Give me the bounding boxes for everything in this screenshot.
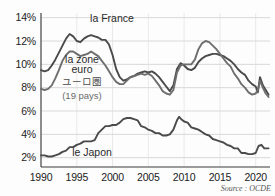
series-label-france: la France <box>90 12 134 24</box>
chart-container: 2%4%6%8%10%12%14% 1990199520002005201020… <box>0 0 275 196</box>
source-attribution: Source : OCDE <box>221 184 271 193</box>
x-tick-label: 2005 <box>137 171 160 183</box>
y-tick-label: 8% <box>21 81 36 93</box>
x-tick-label: 2015 <box>209 171 232 183</box>
y-tick-label: 14% <box>16 11 36 23</box>
x-axis-tick-labels: 1990199520002005201020152020 <box>30 171 268 183</box>
series-label-eurozone-line2: euro <box>71 63 92 75</box>
x-tick-label: 2000 <box>101 171 124 183</box>
series-label-japan: le Japon <box>72 146 112 158</box>
series-label-eurozone-countries: (19 pays) <box>62 90 102 101</box>
x-tick-label: 2010 <box>173 171 196 183</box>
y-tick-label: 10% <box>16 58 36 70</box>
y-axis-tick-labels: 2%4%6%8%10%12%14% <box>16 11 36 163</box>
x-tick-label: 1990 <box>30 171 53 183</box>
y-tick-label: 2% <box>21 151 36 163</box>
y-tick-label: 4% <box>21 128 36 140</box>
x-tick-label: 1995 <box>66 171 89 183</box>
y-tick-label: 12% <box>16 35 36 47</box>
y-tick-label: 6% <box>21 105 36 117</box>
series-label-eurozone-japanese: ユーロ圏 <box>62 76 102 87</box>
x-tick-label: 2020 <box>244 171 267 183</box>
line-chart: 2%4%6%8%10%12%14% 1990199520002005201020… <box>0 0 275 196</box>
